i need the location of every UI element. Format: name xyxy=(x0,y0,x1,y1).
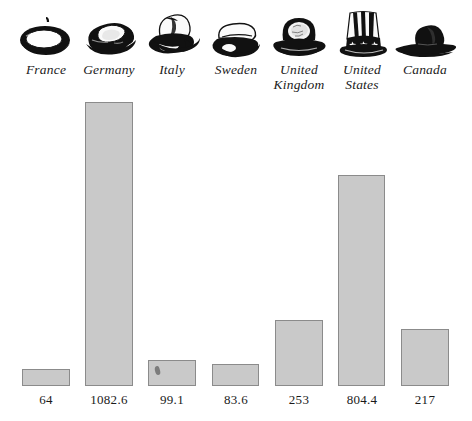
bar-germany xyxy=(85,102,133,386)
plot-area xyxy=(0,0,472,421)
bar-chart-figure: France Germany Italy Sweden United Kingd… xyxy=(0,0,472,421)
bar-france xyxy=(22,369,70,386)
value-label-canada: 217 xyxy=(383,392,467,408)
bar-canada xyxy=(401,329,449,386)
bar-sweden xyxy=(212,364,259,386)
bar-italy xyxy=(148,360,196,386)
print-smudge-artifact xyxy=(154,366,161,376)
bar-united-states xyxy=(338,175,385,386)
bar-united-kingdom xyxy=(275,320,323,386)
